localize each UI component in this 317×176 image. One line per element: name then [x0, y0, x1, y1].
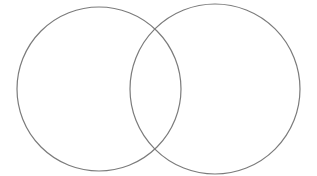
venn-diagram-canvas: [0, 0, 317, 176]
venn-diagram-svg: [0, 0, 317, 176]
diagram-background: [0, 0, 317, 176]
